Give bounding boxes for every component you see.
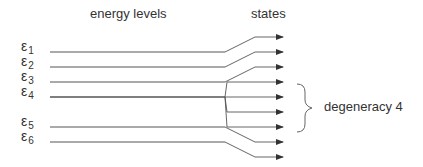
state-arrow bbox=[225, 127, 283, 142]
state-arrow bbox=[225, 67, 283, 82]
state-arrow bbox=[225, 97, 283, 112]
states-header: states bbox=[251, 6, 286, 21]
energy-levels-header: energy levels bbox=[90, 6, 167, 21]
energy-level-diagram: energy levels states ε1ε2ε3ε4ε5ε6 degene… bbox=[0, 0, 423, 167]
degeneracy-brace bbox=[297, 84, 312, 132]
degeneracy-label: degeneracy 4 bbox=[324, 99, 403, 114]
energy-level-label: ε4 bbox=[21, 83, 34, 101]
state-arrow bbox=[225, 52, 283, 67]
state-arrow bbox=[225, 82, 283, 97]
state-arrow bbox=[225, 142, 283, 157]
diagram-lines bbox=[0, 0, 423, 167]
energy-level-label: ε6 bbox=[21, 128, 34, 146]
state-arrow bbox=[225, 37, 283, 52]
